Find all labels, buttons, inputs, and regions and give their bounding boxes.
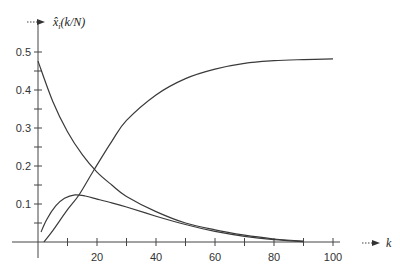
curve-decaying	[38, 61, 304, 241]
x-tick-label: 40	[150, 251, 162, 263]
y-tick-label: 0.1	[16, 198, 31, 210]
x-tick-label: 60	[209, 251, 221, 263]
x-tick-label: 100	[324, 251, 342, 263]
y-tick-label: 0.5	[16, 46, 31, 58]
y-tick-label: 0.3	[16, 122, 31, 134]
line-chart: x̂i(k/N) 0.10.20.30.40.5 k 20406080100	[0, 0, 400, 270]
y-axis: x̂i(k/N)	[27, 15, 85, 258]
x-axis-arrow-icon	[372, 240, 380, 246]
y-axis-arrow-icon	[37, 19, 45, 25]
y-tick-label: 0.2	[16, 160, 31, 172]
y-tick-label: 0.4	[16, 84, 31, 96]
x-tick-label: 20	[91, 251, 103, 263]
curve-rising	[44, 59, 333, 242]
x-tick-label: 80	[268, 251, 280, 263]
curves	[38, 59, 333, 242]
y-axis-label: x̂i(k/N)	[52, 15, 85, 31]
x-axis-label: k	[386, 236, 392, 250]
x-axis: k	[12, 236, 392, 250]
